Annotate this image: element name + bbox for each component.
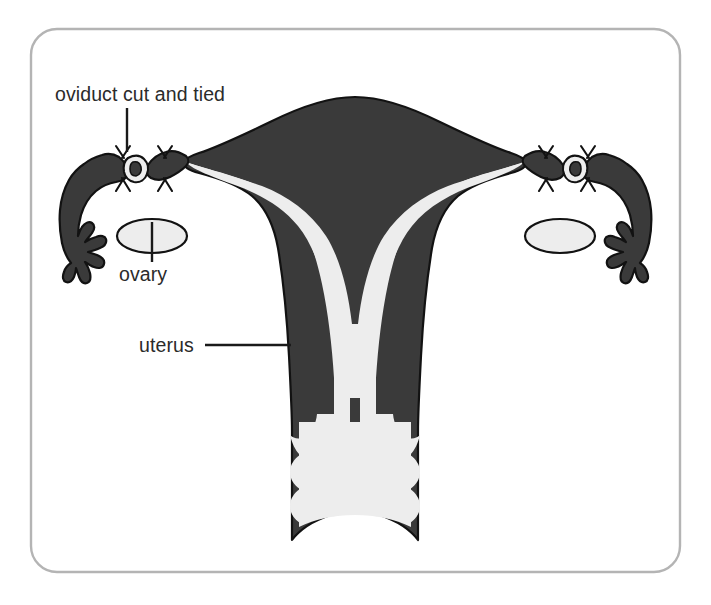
left-oviduct-distal-segment — [60, 154, 129, 283]
right-oviduct-group — [523, 146, 652, 283]
right-oviduct-proximal-stump — [523, 151, 565, 180]
right-oviduct-distal-segment — [583, 154, 652, 283]
ovary-right — [525, 219, 595, 253]
vaginal-canal — [299, 422, 411, 527]
label-ovary: ovary — [119, 263, 167, 285]
left-oviduct-proximal-stump — [146, 151, 188, 180]
uterus-group — [184, 97, 526, 540]
reproductive-system-diagram: oviduct cut and tied ovary uterus — [0, 0, 711, 605]
diagram-container: oviduct cut and tied ovary uterus — [0, 0, 711, 605]
left-oviduct-lumen-inner — [130, 162, 141, 176]
label-uterus: uterus — [139, 334, 194, 356]
label-oviduct-cut-and-tied: oviduct cut and tied — [55, 83, 225, 105]
right-oviduct-lumen-inner — [570, 162, 581, 176]
